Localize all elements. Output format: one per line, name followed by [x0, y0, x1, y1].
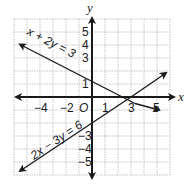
coordinate-graph: y x O −4 −2 1 3 5 5 4 3 1 −3 −4 −5 x + 2…	[0, 0, 188, 186]
x-tick-label: −2	[60, 101, 74, 115]
y-tick-label: 4	[82, 38, 89, 52]
equation-label-line-1: x + 2y = 3	[24, 24, 78, 61]
y-axis-label: y	[85, 0, 93, 15]
y-tick-label: 5	[82, 25, 89, 39]
equation-label-line-2: 2x − 3y = 6	[27, 117, 85, 163]
origin-label: O	[79, 101, 88, 115]
x-tick-label: 5	[153, 101, 160, 115]
y-tick-label: 3	[82, 51, 89, 65]
y-tick-label: 1	[82, 77, 89, 91]
x-axis-label: x	[177, 89, 184, 104]
y-tick-label: −5	[78, 155, 92, 169]
line-2-right-arrow	[131, 73, 166, 97]
x-tick-label: 1	[102, 101, 109, 115]
x-tick-label: −4	[34, 101, 48, 115]
x-tick-label: 3	[128, 101, 135, 115]
y-tick-label: −4	[78, 142, 92, 156]
